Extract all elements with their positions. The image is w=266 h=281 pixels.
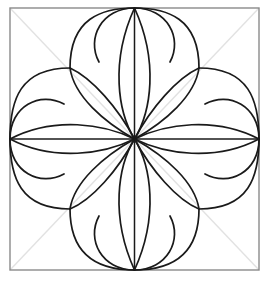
geometric-pattern-canvas [0,0,266,281]
figure-root [0,0,266,281]
